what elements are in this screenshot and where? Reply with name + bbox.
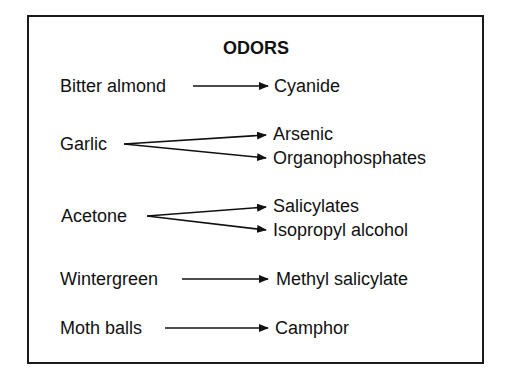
cause-arsenic: Arsenic xyxy=(273,124,333,144)
cause-salicylates: Salicylates xyxy=(273,196,359,216)
odor-bitter-almond: Bitter almond xyxy=(60,76,166,96)
cause-camphor: Camphor xyxy=(275,318,349,338)
cause-isopropyl-alcohol: Isopropyl alcohol xyxy=(273,220,408,240)
arrow-garlic-organophosphates xyxy=(124,144,266,158)
odor-garlic: Garlic xyxy=(60,134,107,154)
cause-organophosphates: Organophosphates xyxy=(273,148,426,168)
odor-wintergreen: Wintergreen xyxy=(60,269,158,289)
odor-acetone: Acetone xyxy=(61,206,127,226)
arrow-acetone-isopropyl xyxy=(147,216,266,230)
arrow-garlic-arsenic xyxy=(124,135,266,144)
odor-moth-balls: Moth balls xyxy=(60,318,142,338)
cause-cyanide: Cyanide xyxy=(274,76,340,96)
arrow-acetone-salicylates xyxy=(147,207,266,216)
cause-methyl-salicylate: Methyl salicylate xyxy=(276,269,408,289)
